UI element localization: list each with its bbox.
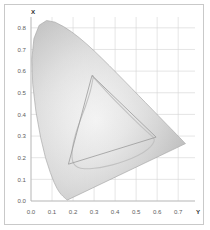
y-axis-tick-labels: 0.00.10.20.30.40.50.60.70.8: [18, 24, 27, 204]
y-tick-label: 0.1: [18, 176, 27, 183]
x-tick-label: 0.2: [69, 208, 78, 215]
x-tick-label: 0.5: [132, 208, 141, 215]
y-tick-label: 0.3: [18, 132, 27, 139]
y-tick-label: 0.4: [18, 111, 27, 118]
x-tick-label: 0.7: [174, 208, 183, 215]
y-tick-label: 0.2: [18, 154, 27, 161]
chart-plot-wrapper: 0.00.10.20.30.40.50.60.7 0.00.10.20.30.4…: [5, 5, 205, 226]
y-axis-label: X: [31, 8, 36, 15]
x-tick-label: 0.6: [153, 208, 162, 215]
chart-figure-frame: 0.00.10.20.30.40.50.60.7 0.00.10.20.30.4…: [4, 4, 204, 225]
x-axis-tick-labels: 0.00.10.20.30.40.50.60.7: [27, 208, 183, 215]
y-tick-label: 0.0: [18, 197, 27, 204]
y-tick-label: 0.6: [18, 67, 27, 74]
cie-chromaticity-chart[interactable]: 0.00.10.20.30.40.50.60.7 0.00.10.20.30.4…: [5, 5, 205, 226]
x-axis-label: Y: [196, 208, 201, 215]
y-tick-label: 0.7: [18, 46, 27, 53]
x-tick-label: 0.1: [48, 208, 57, 215]
x-tick-label: 0.0: [27, 208, 36, 215]
x-tick-label: 0.4: [111, 208, 120, 215]
y-tick-label: 0.8: [18, 24, 27, 31]
x-tick-label: 0.3: [90, 208, 99, 215]
y-tick-label: 0.5: [18, 89, 27, 96]
